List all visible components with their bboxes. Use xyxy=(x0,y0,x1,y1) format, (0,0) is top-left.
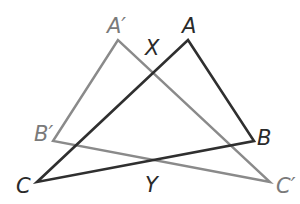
triangle-abc xyxy=(37,40,254,182)
label-a-prime: A′ xyxy=(105,14,126,38)
label-b: B xyxy=(257,126,271,150)
label-c: C xyxy=(16,174,31,198)
reflection-diagram: A′ A X B′ B C Y C′ xyxy=(0,0,300,204)
label-a: A xyxy=(180,14,196,38)
triangle-a-prime-b-prime-c-prime xyxy=(53,40,270,182)
label-y: Y xyxy=(145,173,160,197)
label-x: X xyxy=(144,36,160,60)
label-b-prime: B′ xyxy=(34,122,53,146)
label-c-prime: C′ xyxy=(276,174,296,198)
